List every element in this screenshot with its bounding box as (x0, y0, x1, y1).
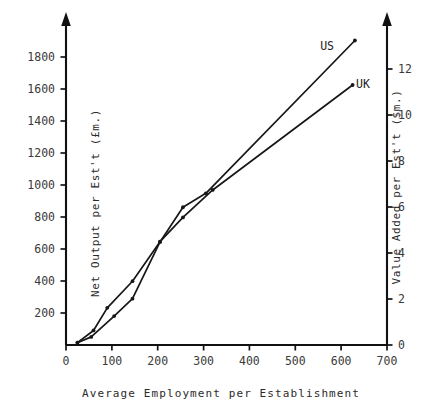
data-point-uk (181, 216, 185, 220)
left-tick-label: 600 (34, 242, 55, 256)
right-axis-tick-labels: 0 2 4 6 8 10 12 (398, 62, 412, 352)
data-line-uk (77, 85, 352, 343)
x-tick-label: 400 (239, 354, 260, 368)
data-point-uk (105, 306, 109, 310)
left-tick-label: 400 (34, 274, 55, 288)
left-tick-label: 1000 (27, 178, 55, 192)
right-tick-label: 10 (398, 108, 412, 122)
plot-area: 200 400 600 800 1000 1200 1400 1600 1800… (0, 0, 442, 406)
right-axis-arrowhead (382, 12, 392, 26)
left-tick-label: 1400 (27, 114, 55, 128)
data-point-uk (351, 83, 355, 87)
x-tick-label: 500 (285, 354, 306, 368)
series-label-us: US (320, 39, 334, 53)
series-label-uk: UK (356, 77, 370, 91)
x-tick-label: 0 (63, 354, 70, 368)
x-tick-label: 100 (102, 354, 123, 368)
x-axis-tick-labels: 0 100 200 300 400 500 600 700 (63, 354, 398, 368)
left-axis (61, 12, 71, 345)
data-point-us (89, 335, 93, 339)
right-tick-label: 0 (398, 338, 405, 352)
left-tick-label: 200 (34, 306, 55, 320)
right-tick-label: 8 (398, 154, 405, 168)
left-tick-label: 1200 (27, 146, 55, 160)
data-point-us (353, 39, 357, 43)
right-tick-label: 6 (398, 200, 405, 214)
right-tick-label: 2 (398, 292, 405, 306)
right-tick-label: 4 (398, 246, 405, 260)
series-annotations: US UK (320, 39, 370, 91)
data-line-us (77, 41, 354, 343)
data-series-layer (76, 39, 357, 345)
data-point-us (112, 314, 116, 318)
data-point-uk (211, 188, 215, 192)
chart-figure: Net Output per Est't (£m.) Value Added p… (0, 0, 442, 406)
data-point-us (131, 297, 135, 301)
data-point-uk (158, 240, 162, 244)
x-tick-label: 700 (377, 354, 398, 368)
left-axis-arrowhead (61, 12, 71, 26)
left-axis-tick-labels: 200 400 600 800 1000 1200 1400 1600 1800 (27, 50, 55, 320)
left-tick-label: 1600 (27, 82, 55, 96)
right-axis (382, 12, 392, 345)
x-tick-label: 200 (147, 354, 168, 368)
data-point-us (181, 205, 185, 209)
left-tick-label: 1800 (27, 50, 55, 64)
left-tick-label: 800 (34, 210, 55, 224)
data-point-uk (76, 341, 80, 345)
data-point-uk (92, 329, 96, 333)
x-tick-label: 300 (193, 354, 214, 368)
data-point-uk (131, 279, 135, 283)
right-tick-label: 12 (398, 62, 412, 76)
x-tick-label: 600 (331, 354, 352, 368)
